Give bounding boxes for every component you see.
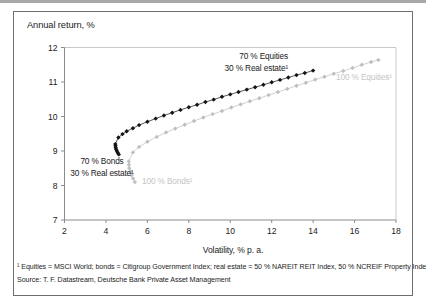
x-axis-title: Volatility, % p. a. (160, 245, 306, 255)
x-tick-label: 12 (267, 226, 277, 236)
series-marker-frontier-bonds-to-equities (145, 140, 149, 144)
x-tick-label: 8 (186, 226, 191, 236)
series-marker-frontier-with-30pct-real-estate (178, 108, 182, 112)
series-marker-frontier-bonds-to-equities (294, 84, 298, 88)
series-marker-frontier-bonds-to-equities (220, 109, 224, 113)
y-tick-label: 8 (53, 181, 58, 191)
annotation-100-bonds: 100 % Bonds¹ (142, 175, 192, 187)
series-marker-frontier-with-30pct-real-estate (137, 123, 141, 127)
series-marker-frontier-with-30pct-real-estate (203, 100, 207, 104)
series-line-frontier-with-30pct-real-estate (115, 71, 313, 155)
y-tick-label: 11 (49, 77, 58, 87)
annotation-line: 30 % Real estate¹ (225, 62, 288, 74)
annotation-70-bonds-30-real-estate: 70 % Bonds 30 % Real estate¹ (62, 155, 142, 179)
x-tick-label: 16 (350, 226, 360, 236)
series-marker-frontier-with-30pct-real-estate (245, 87, 249, 91)
series-marker-frontier-bonds-to-equities (210, 112, 214, 116)
series-marker-frontier-with-30pct-real-estate (195, 103, 199, 107)
series-marker-frontier-with-30pct-real-estate (162, 113, 166, 117)
series-marker-frontier-bonds-to-equities (164, 130, 168, 134)
series-marker-frontier-with-30pct-real-estate (311, 68, 315, 72)
series-marker-frontier-with-30pct-real-estate (261, 83, 265, 87)
x-tick-label: 18 (391, 226, 401, 236)
series-marker-frontier-with-30pct-real-estate (236, 90, 240, 94)
series-marker-frontier-with-30pct-real-estate (131, 126, 135, 130)
x-tick-label: 14 (308, 226, 318, 236)
series-marker-frontier-with-30pct-real-estate (303, 71, 307, 75)
series-marker-frontier-with-30pct-real-estate (294, 73, 298, 77)
footnote-definitions: ¹ Equities = MSCI World; bonds = Citigro… (17, 263, 417, 271)
y-tick-label: 9 (53, 146, 58, 156)
series-marker-frontier-with-30pct-real-estate (154, 116, 158, 120)
annotation-line: 100 % Equities¹ (336, 71, 392, 83)
frontier-chart-plot: 24681012141618789101112 (0, 0, 426, 304)
series-marker-frontier-bonds-to-equities (229, 105, 233, 109)
series-marker-frontier-bonds-to-equities (201, 115, 205, 119)
series-marker-frontier-with-30pct-real-estate (187, 105, 191, 109)
series-marker-frontier-bonds-to-equities (313, 77, 317, 81)
series-marker-frontier-with-30pct-real-estate (286, 75, 290, 79)
series-marker-frontier-bonds-to-equities (276, 90, 280, 94)
y-tick-label: 7 (53, 215, 58, 225)
y-tick-label: 12 (48, 43, 58, 53)
series-marker-frontier-with-30pct-real-estate (253, 85, 257, 89)
annotation-line: 30 % Real estate¹ (62, 167, 142, 179)
x-tick-label: 2 (62, 226, 67, 236)
series-marker-frontier-with-30pct-real-estate (212, 97, 216, 101)
series-marker-frontier-with-30pct-real-estate (228, 92, 232, 96)
annotation-line: 70 % Bonds (62, 155, 142, 167)
annotation-line: 70 % Equities (225, 50, 288, 62)
series-marker-frontier-bonds-to-equities (257, 96, 261, 100)
annotation-100-equities: 100 % Equities¹ (336, 71, 392, 83)
series-marker-frontier-bonds-to-equities (322, 75, 326, 79)
series-marker-frontier-with-30pct-real-estate (145, 120, 149, 124)
y-tick-label: 10 (48, 112, 58, 122)
annotation-70-equities-30-real-estate: 70 % Equities 30 % Real estate¹ (225, 50, 288, 74)
x-tick-label: 4 (104, 226, 109, 236)
x-tick-label: 10 (225, 226, 235, 236)
series-marker-frontier-bonds-to-equities (376, 58, 380, 62)
series-marker-frontier-with-30pct-real-estate (270, 80, 274, 84)
series-marker-frontier-bonds-to-equities (350, 66, 354, 70)
x-tick-label: 6 (145, 226, 150, 236)
series-marker-frontier-bonds-to-equities (238, 102, 242, 106)
page-background: Annual return, % 24681012141618789101112… (0, 0, 426, 304)
series-marker-frontier-bonds-to-equities (248, 99, 252, 103)
series-marker-frontier-bonds-to-equities (155, 135, 159, 139)
series-marker-frontier-with-30pct-real-estate (278, 78, 282, 82)
series-marker-frontier-with-30pct-real-estate (125, 129, 129, 133)
series-marker-frontier-bonds-to-equities (183, 123, 187, 127)
source-line: Source: T. F. Datastream, Deutsche Bank … (17, 276, 417, 284)
series-marker-frontier-bonds-to-equities (360, 63, 364, 68)
series-marker-frontier-bonds-to-equities (304, 81, 308, 85)
series-marker-frontier-bonds-to-equities (369, 60, 373, 64)
series-marker-frontier-bonds-to-equities (266, 93, 270, 97)
series-marker-frontier-bonds-to-equities (285, 87, 289, 91)
series-marker-frontier-bonds-to-equities (192, 119, 196, 123)
series-marker-frontier-with-30pct-real-estate (170, 111, 174, 115)
series-marker-frontier-bonds-to-equities (173, 126, 177, 130)
annotation-line: 100 % Bonds¹ (142, 175, 192, 187)
series-marker-frontier-with-30pct-real-estate (220, 95, 224, 99)
series-marker-frontier-bonds-to-equities (133, 180, 137, 184)
